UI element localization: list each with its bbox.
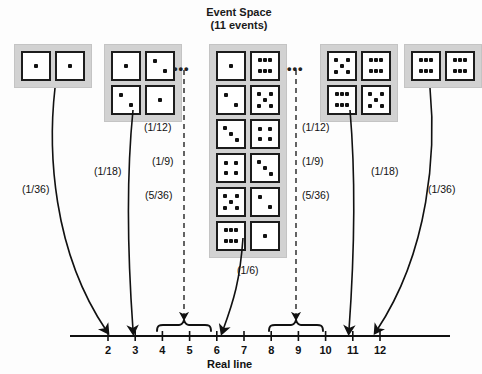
prob-label-sum-12: (1/36) bbox=[428, 183, 455, 195]
arrow-sum-7 bbox=[223, 238, 243, 330]
prob-label-sum-5: (1/9) bbox=[152, 155, 174, 167]
tick-label-4: 4 bbox=[152, 344, 172, 356]
prob-label-sum-11: (1/18) bbox=[371, 165, 398, 177]
tick-label-7: 7 bbox=[234, 344, 254, 356]
tick-label-6: 6 bbox=[207, 344, 227, 356]
tick-label-9: 9 bbox=[288, 344, 308, 356]
tick-label-12: 12 bbox=[370, 344, 390, 356]
prob-label-sum-2: (1/36) bbox=[22, 183, 49, 195]
brace-8-10 bbox=[269, 320, 323, 331]
prob-label-sum-10: (1/12) bbox=[302, 121, 329, 133]
arrow-sum-3 bbox=[128, 110, 133, 330]
tick-label-10: 10 bbox=[316, 344, 336, 356]
prob-label-sum-4: (1/12) bbox=[144, 121, 171, 133]
arrow-sum-11 bbox=[349, 110, 354, 330]
tick-label-8: 8 bbox=[261, 344, 281, 356]
tick-label-11: 11 bbox=[343, 344, 363, 356]
arrow-sum-12 bbox=[377, 88, 432, 330]
tick-label-2: 2 bbox=[98, 344, 118, 356]
tick-label-3: 3 bbox=[125, 344, 145, 356]
prob-label-sum-8: (5/36) bbox=[302, 189, 329, 201]
prob-label-sum-3: (1/18) bbox=[94, 165, 121, 177]
prob-label-sum-7: (1/6) bbox=[237, 264, 259, 276]
prob-label-sum-6: (5/36) bbox=[145, 189, 172, 201]
arrow-sum-2 bbox=[52, 88, 106, 330]
brace-4-6 bbox=[157, 320, 211, 331]
prob-label-sum-9: (1/9) bbox=[302, 155, 324, 167]
real-line-label: Real line bbox=[207, 358, 252, 370]
tick-label-5: 5 bbox=[180, 344, 200, 356]
